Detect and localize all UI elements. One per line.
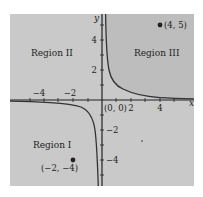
hyperbola-regions-diagram: y x −4 −2 2 4 4 2 −2 −4 (0, 0) Region II… — [0, 0, 203, 197]
stray-dot — [141, 140, 143, 142]
x-axis-label: x — [189, 98, 194, 108]
region-ii-label: Region II — [31, 48, 73, 58]
y-tick-label: −4 — [106, 155, 119, 165]
y-tick-label: 2 — [92, 65, 97, 75]
x-tick-label: −4 — [33, 88, 46, 98]
y-tick-label: −2 — [106, 125, 119, 135]
y-axis-label: y — [93, 13, 100, 23]
point-label-neg2-neg4: (−2, −4) — [41, 163, 78, 173]
x-tick-label: −2 — [64, 88, 77, 98]
region-i-label: Region I — [33, 140, 72, 150]
x-tick-label: 4 — [157, 103, 162, 113]
point-neg2-neg4 — [71, 158, 76, 163]
region-iii-label: Region III — [134, 48, 180, 58]
point-4-5 — [158, 23, 163, 28]
y-tick-label: 4 — [92, 35, 97, 45]
origin-label: (0, 0) — [104, 103, 127, 113]
x-tick-label: 2 — [128, 103, 133, 113]
point-label-4-5: (4, 5) — [164, 20, 187, 30]
